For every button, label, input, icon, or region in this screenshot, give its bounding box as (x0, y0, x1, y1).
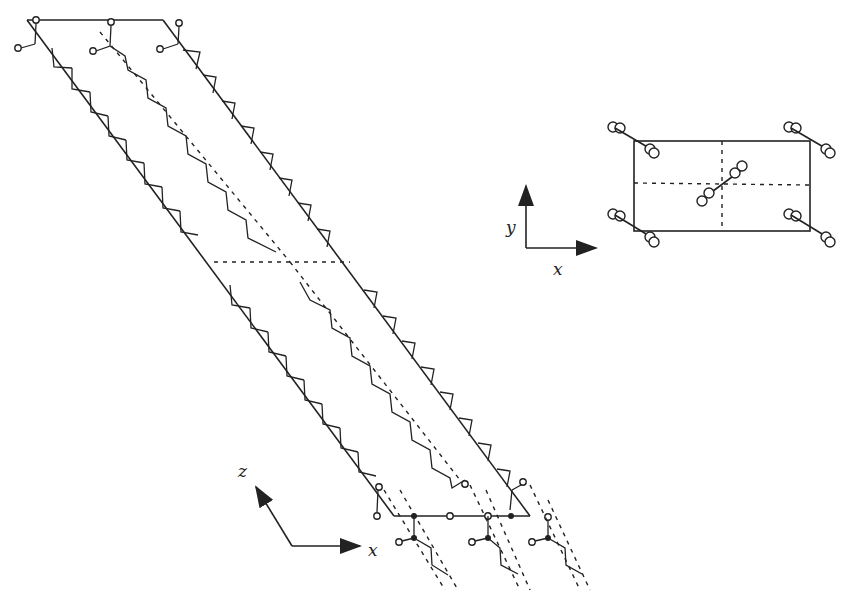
unit-cell-xz (27, 20, 530, 516)
xz-projection: z x (15, 17, 590, 590)
z-axis-label: z (237, 461, 248, 481)
xy-axes: y x (505, 186, 596, 279)
xy-projection: y x (505, 122, 835, 279)
chain-middle (90, 19, 468, 488)
x-axis-label: x (368, 540, 378, 560)
chain-left (15, 17, 382, 519)
crystal-packing-diagram: z x (0, 0, 850, 609)
x-axis-label-inset: x (553, 259, 563, 279)
unit-cell-xy (634, 141, 810, 231)
chain-xy-center (697, 161, 747, 206)
chain-ends-bottom (384, 485, 590, 590)
xz-axes: z x (237, 461, 378, 560)
y-axis-label: y (505, 217, 516, 237)
z-axis-arrow (256, 487, 292, 546)
